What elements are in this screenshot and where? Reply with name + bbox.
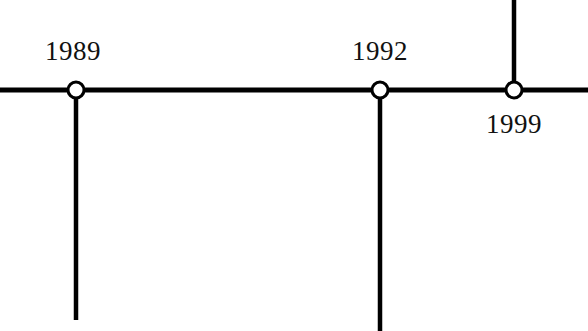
event-label-1992: 1992 — [352, 38, 408, 65]
timeline-figure: 1989 1992 1999 — [0, 0, 588, 331]
event-node-1999[interactable] — [506, 82, 522, 98]
event-label-1999: 1999 — [486, 111, 542, 138]
event-label-1989: 1989 — [45, 38, 101, 65]
event-node-1992[interactable] — [372, 82, 388, 98]
event-node-1989[interactable] — [68, 82, 84, 98]
